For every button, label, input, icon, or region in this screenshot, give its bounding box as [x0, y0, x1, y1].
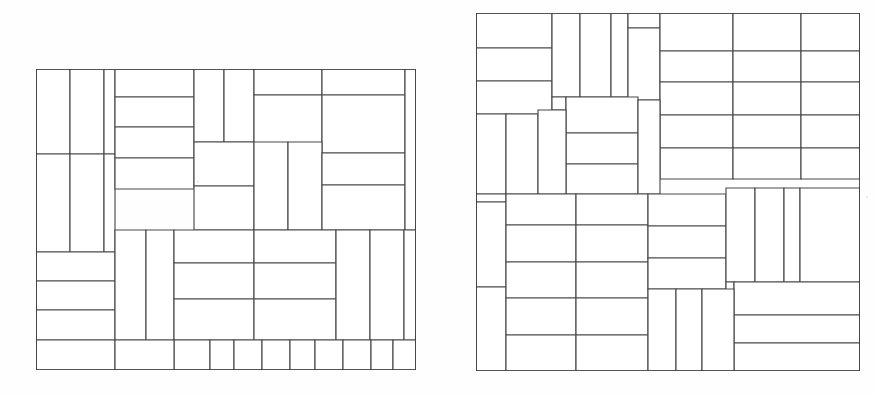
packed-rectangle — [676, 289, 702, 371]
packed-rectangle — [801, 115, 860, 148]
packed-rectangle — [234, 340, 262, 370]
packed-rectangle — [322, 185, 405, 230]
packed-rectangle — [648, 226, 726, 258]
packed-rectangle — [733, 148, 801, 179]
packed-rectangle — [322, 153, 405, 185]
packed-rectangle — [648, 258, 726, 289]
packed-rectangle — [580, 13, 611, 97]
packed-rectangle — [254, 299, 336, 340]
packed-rectangle — [36, 310, 115, 340]
right-packing-svg — [476, 13, 860, 371]
paper-speck — [197, 181, 199, 183]
packed-rectangle — [254, 263, 336, 299]
packed-rectangle — [476, 287, 506, 371]
packed-rectangle — [660, 115, 733, 148]
packed-rectangle — [194, 69, 224, 142]
diagram-canvas — [0, 0, 876, 395]
packed-rectangle — [702, 289, 734, 371]
packed-rectangle — [476, 202, 506, 287]
packed-rectangle — [755, 188, 784, 282]
packed-rectangle — [660, 51, 733, 82]
packed-rectangle — [506, 298, 576, 335]
packed-rectangle — [734, 343, 860, 371]
packed-rectangle — [343, 340, 371, 370]
packed-rectangle — [174, 230, 254, 263]
packed-rectangle — [801, 82, 860, 115]
packed-rectangle — [115, 230, 146, 340]
packed-rectangle — [36, 340, 115, 370]
packed-rectangle — [784, 188, 800, 282]
packed-rectangle — [660, 13, 733, 51]
right-packing — [476, 13, 860, 371]
packed-rectangle — [733, 13, 801, 51]
packed-rectangle — [801, 13, 860, 51]
packed-rectangle — [801, 51, 860, 82]
packed-rectangle — [628, 13, 660, 28]
packed-rectangle — [288, 142, 322, 230]
packed-rectangle — [70, 69, 104, 154]
packed-rectangle — [538, 110, 566, 194]
packed-rectangle — [648, 194, 726, 226]
packed-rectangle — [371, 340, 393, 370]
packed-rectangle — [174, 299, 254, 340]
packed-rectangle — [506, 114, 538, 194]
packed-rectangle — [506, 225, 576, 262]
packed-rectangle — [262, 340, 290, 370]
packed-rectangle — [801, 148, 860, 179]
packed-rectangle — [36, 69, 70, 154]
packed-rectangle — [104, 154, 115, 252]
packed-rectangle — [146, 230, 174, 340]
packed-rectangle — [734, 282, 860, 315]
packed-rectangle — [506, 194, 576, 225]
packed-rectangle — [370, 230, 404, 340]
packed-rectangle — [506, 335, 576, 371]
packed-rectangle — [566, 164, 638, 194]
packed-rectangle — [104, 69, 115, 154]
packed-rectangle — [115, 127, 194, 158]
packed-rectangle — [36, 281, 115, 310]
packed-rectangle — [726, 188, 755, 282]
packed-rectangle — [800, 188, 860, 282]
packed-rectangle — [115, 97, 194, 127]
packed-rectangle — [194, 142, 254, 186]
packed-rectangle — [254, 69, 322, 95]
packed-rectangle — [254, 142, 288, 230]
packed-rectangle — [660, 82, 733, 115]
packed-rectangle — [393, 340, 416, 370]
packed-rectangle — [36, 154, 70, 252]
packed-rectangle — [174, 263, 254, 299]
packed-rectangle — [174, 340, 210, 370]
packed-rectangle — [115, 340, 174, 370]
packed-rectangle — [36, 252, 115, 281]
packed-rectangle — [194, 186, 254, 230]
packed-rectangle — [733, 115, 801, 148]
packed-rectangle — [611, 13, 628, 97]
packed-rectangle — [734, 315, 860, 343]
packed-rectangle — [70, 154, 104, 252]
packed-rectangle — [290, 340, 315, 370]
packed-rectangle — [552, 13, 580, 97]
packed-rectangle — [224, 69, 254, 142]
packed-rectangle — [628, 28, 660, 100]
packed-rectangle — [210, 340, 234, 370]
packed-rectangle — [476, 114, 506, 194]
packed-rectangle — [115, 158, 194, 189]
packed-rectangle — [566, 97, 638, 133]
packed-rectangle — [638, 100, 660, 194]
packed-rectangle — [506, 262, 576, 298]
paper-speck — [866, 196, 868, 198]
packed-rectangle — [733, 82, 801, 115]
packed-rectangle — [404, 230, 416, 340]
packed-rectangle — [476, 81, 552, 114]
packed-rectangle — [315, 340, 343, 370]
packed-rectangle — [405, 69, 416, 230]
packed-rectangle — [336, 230, 370, 340]
packed-rectangle — [576, 298, 648, 335]
packed-rectangle — [576, 335, 648, 371]
packed-rectangle — [476, 194, 506, 202]
packed-rectangle — [576, 194, 648, 225]
packed-rectangle — [254, 230, 336, 263]
packed-rectangle — [566, 133, 638, 164]
packed-rectangle — [476, 48, 552, 81]
left-packing-svg — [36, 69, 416, 370]
